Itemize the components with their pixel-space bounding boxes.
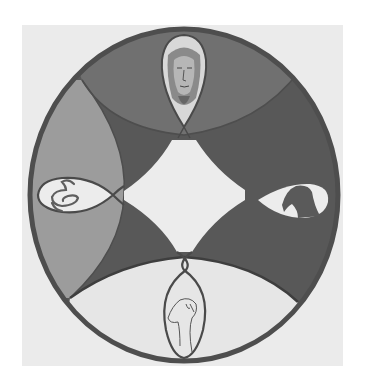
mandala-artwork	[0, 0, 365, 388]
